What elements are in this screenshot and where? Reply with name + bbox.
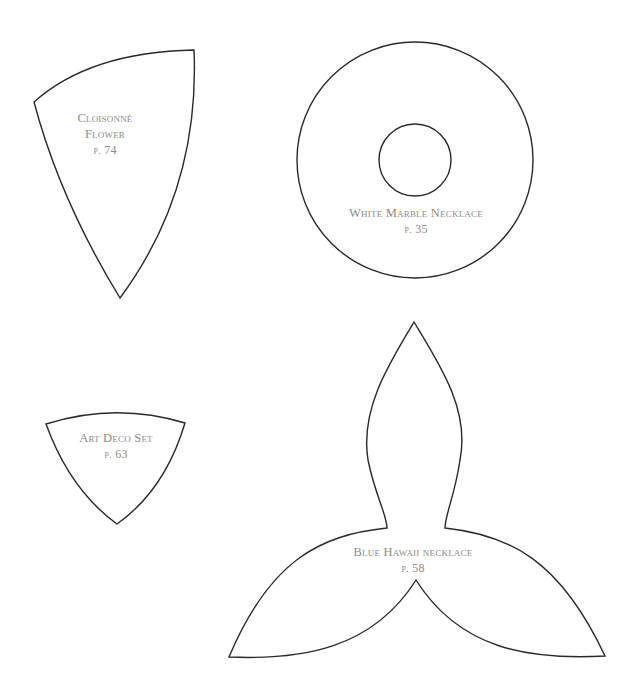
white-marble-necklace-title: White Marble Necklace: [349, 205, 483, 221]
page-prefix: p.: [401, 562, 409, 574]
art-deco-set-page-ref: p. 63: [79, 446, 153, 462]
cloisonne-flower-page-ref: p. 74: [77, 142, 132, 158]
cloisonne-flower-title-line-2: Flower: [77, 126, 132, 142]
blue-hawaii-necklace-title: Blue Hawaii necklace: [354, 544, 473, 560]
cloisonne-flower-outline: [34, 50, 194, 298]
cloisonne-flower-title-line-1: Cloisonné: [77, 110, 132, 126]
page-number: 63: [115, 447, 127, 461]
page-prefix: p.: [404, 223, 412, 235]
blue-hawaii-necklace-page-ref: p. 58: [354, 560, 473, 576]
blue-hawaii-necklace-label: Blue Hawaii necklace p. 58: [354, 544, 473, 576]
page-number: 74: [104, 143, 116, 157]
page-number: 35: [415, 222, 427, 236]
white-marble-inner-circle: [379, 124, 451, 196]
template-sheet: [0, 0, 636, 694]
cloisonne-flower-label: Cloisonné Flower p. 74: [77, 110, 132, 158]
blue-hawaii-outline: [229, 322, 605, 657]
white-marble-necklace-label: White Marble Necklace p. 35: [349, 205, 483, 237]
page-prefix: p.: [93, 144, 101, 156]
white-marble-necklace-page-ref: p. 35: [349, 221, 483, 237]
art-deco-set-title: Art Deco Set: [79, 430, 153, 446]
page-number: 58: [412, 561, 424, 575]
art-deco-set-label: Art Deco Set p. 63: [79, 430, 153, 462]
page-prefix: p.: [104, 448, 112, 460]
